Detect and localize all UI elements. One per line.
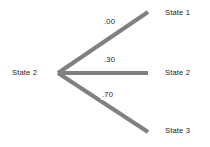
target-state-label-1: State 2 <box>165 68 190 78</box>
target-state-label-2: State 3 <box>165 126 190 136</box>
source-state-label: State 2 <box>12 68 37 78</box>
branch-probability-label-2: .70 <box>101 90 114 100</box>
branch-probability-label-1: .30 <box>103 55 116 65</box>
branch-probability-label-0: .00 <box>103 17 116 27</box>
branch-line-2[interactable] <box>58 73 148 132</box>
target-state-label-0: State 1 <box>165 8 190 18</box>
state-transition-diagram: State 2 .00 .30 .70 State 1 State 2 Stat… <box>0 0 210 147</box>
